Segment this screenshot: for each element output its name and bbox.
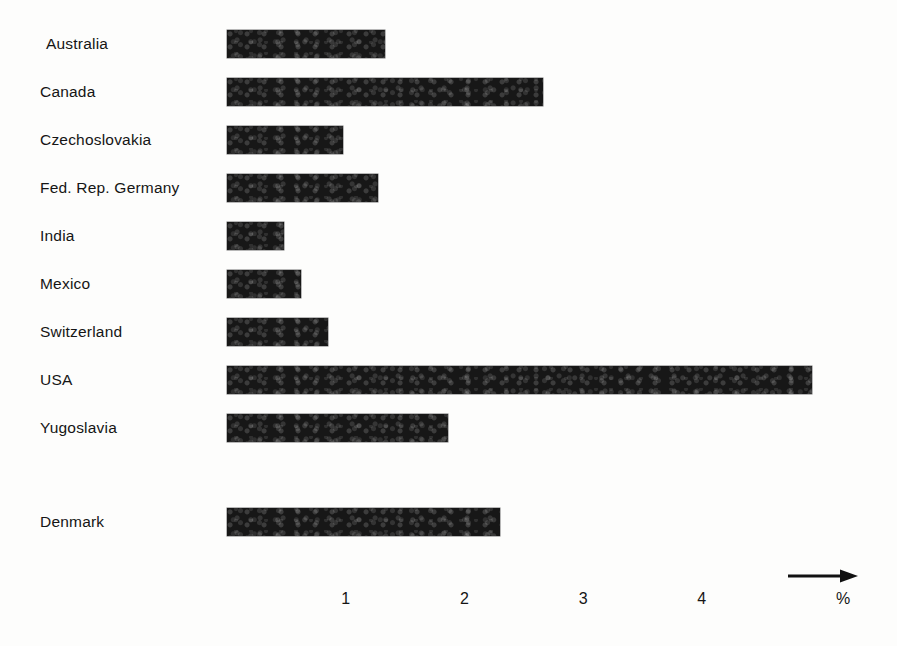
bar-label: USA [40,371,72,389]
bar [227,366,812,394]
bar [227,126,343,154]
bar-row: Switzerland [0,318,897,346]
x-axis-tick-4: 4 [697,590,706,608]
bar [227,414,448,442]
bar [227,508,500,536]
bar [227,174,378,202]
bar [227,222,284,250]
bar-row: Yugoslavia [0,414,897,442]
bar [227,78,543,106]
bar-label: Canada [40,83,96,101]
bar-label: Switzerland [40,323,122,341]
bar-row: Czechoslovakia [0,126,897,154]
bar-label: Fed. Rep. Germany [40,179,180,197]
bar-label: Denmark [40,513,104,531]
bar [227,270,301,298]
right-arrow-icon [788,568,858,584]
bar-label: India [40,227,75,245]
bar-label: Yugoslavia [40,419,117,437]
bar-row: Denmark [0,508,897,536]
x-axis-tick-3: 3 [579,590,588,608]
bar-row: Mexico [0,270,897,298]
bar [227,318,328,346]
bar-label: Czechoslovakia [40,131,151,149]
x-axis-tick-1: 1 [341,590,350,608]
bar-row: Fed. Rep. Germany [0,174,897,202]
bar-label: Australia [46,35,108,53]
bar-row: USA [0,366,897,394]
x-axis-tick-2: 2 [460,590,469,608]
bar [227,30,385,58]
bar-row: Australia [0,30,897,58]
bar-row: India [0,222,897,250]
chart-page: AustraliaCanadaCzechoslovakiaFed. Rep. G… [0,0,897,646]
bar-label: Mexico [40,275,90,293]
bar-row: Canada [0,78,897,106]
x-axis-tick-labels: 1234 [0,590,897,614]
x-axis-unit-label: % [836,590,850,608]
bar-chart: AustraliaCanadaCzechoslovakiaFed. Rep. G… [0,0,897,646]
